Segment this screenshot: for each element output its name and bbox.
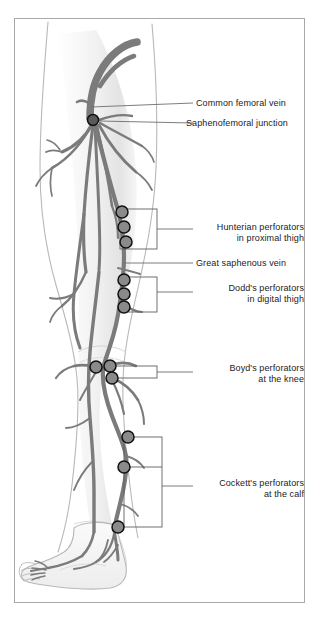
annotation-layer [0,0,320,621]
marker-boyds-2 [104,360,116,372]
marker-hunterian-3 [120,236,132,248]
label-dodds-line2: in digital thigh [196,294,304,305]
leader-lines [91,103,193,486]
marker-cocketts-2 [118,461,130,473]
label-great-saphenous-vein-text: Great saphenous vein [196,258,286,268]
label-hunterian-line1: Hunterian perforators [196,222,304,233]
label-common-femoral-vein-text: Common femoral vein [196,98,286,108]
label-dodds-line1: Dodd's perforators [196,283,304,294]
label-boyds-perforators: Boyd's perforators at the knee [196,363,304,385]
label-dodds-perforators: Dodd's perforators in digital thigh [196,283,304,305]
label-boyds-line1: Boyd's perforators [196,363,304,374]
marker-hunterian-1 [116,206,128,218]
label-common-femoral-vein: Common femoral vein [196,98,286,109]
label-hunterian-perforators: Hunterian perforators in proximal thigh [196,222,304,244]
marker-boyds-3 [106,372,118,384]
label-cocketts-line1: Cockett's perforators [190,478,304,489]
marker-dodds-2 [118,288,130,300]
perforator-brackets [113,209,162,527]
leader-common-femoral-vein [91,103,193,107]
marker-cocketts-1 [122,431,134,443]
perforator-markers [88,115,135,534]
label-saphenofemoral-junction-text: Saphenofemoral junction [186,118,288,128]
label-hunterian-line2: in proximal thigh [196,233,304,244]
label-boyds-line2: at the knee [196,374,304,385]
marker-dodds-1 [118,274,130,286]
marker-dodds-3 [118,301,130,313]
label-saphenofemoral-junction: Saphenofemoral junction [186,118,288,129]
label-great-saphenous-vein: Great saphenous vein [196,258,286,269]
marker-saphenofemoral-junction [88,115,99,126]
marker-boyds-1 [90,361,102,373]
leader-saphenofemoral-junction [99,121,193,123]
diagram-canvas: Common femoral vein Saphenofemoral junct… [0,0,320,621]
label-cocketts-perforators: Cockett's perforators at the calf [190,478,304,500]
bracket-boyds [113,366,157,378]
marker-hunterian-2 [118,221,130,233]
label-cocketts-line2: at the calf [190,489,304,500]
marker-cocketts-3 [112,521,124,533]
bracket-cocketts [124,437,162,527]
